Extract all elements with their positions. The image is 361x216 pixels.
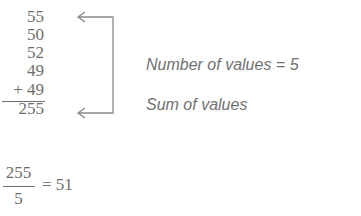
mean-result: = 51 (42, 175, 73, 195)
mean-numerator: 255 (2, 163, 35, 183)
sum-label: Sum of values (146, 96, 247, 114)
fraction-bar (3, 186, 35, 187)
mean-denominator: 5 (2, 189, 35, 209)
count-label: Number of values = 5 (146, 56, 299, 74)
